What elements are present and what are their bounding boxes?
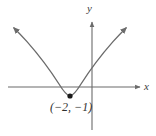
vertex-point-marker: [67, 93, 72, 98]
x-axis-label: x: [144, 81, 149, 92]
parabola-graph-figure: y x (−2, −1): [0, 0, 156, 136]
graph-canvas: [0, 0, 156, 136]
y-axis-label: y: [87, 3, 92, 14]
parabola-curve: [14, 28, 126, 96]
vertex-coordinate-label: (−2, −1): [50, 101, 92, 113]
